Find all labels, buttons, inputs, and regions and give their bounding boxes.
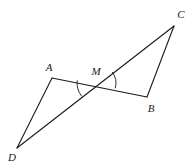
geometry-figure: A B C D M xyxy=(0,0,196,168)
vertex-label-M: M xyxy=(91,66,100,77)
vertex-label-D: D xyxy=(8,152,16,163)
vertex-label-B: B xyxy=(148,103,155,114)
vertex-label-C: C xyxy=(177,9,184,20)
segment-A-D xyxy=(17,78,52,148)
segment-A-B xyxy=(52,78,147,97)
vertex-label-A: A xyxy=(46,62,53,73)
geometry-canvas xyxy=(0,0,196,168)
angle-arc-at-M-right xyxy=(112,72,116,88)
